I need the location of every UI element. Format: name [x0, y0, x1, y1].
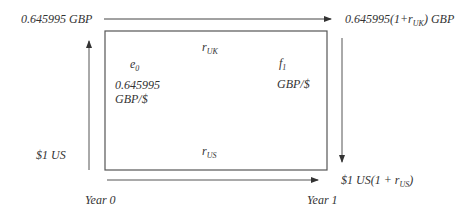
spot-rate-unit: GBP/$ [115, 92, 148, 106]
bottom-right-amount: $1 US(1 + rUS) [341, 173, 413, 192]
top-left-amount: 0.645995 GBP [21, 12, 92, 26]
left-amount: $1 US [36, 148, 66, 162]
year-0-label: Year 0 [85, 193, 116, 207]
spot-rate-value: 0.645995 [115, 78, 160, 92]
forward-rate-unit: GBP/$ [277, 77, 310, 91]
year-1-label: Year 1 [307, 193, 338, 207]
us-rate-label: rUS [202, 144, 216, 163]
top-right-amount: 0.645995(1+rUK) GBP [345, 12, 454, 31]
spot-rate-label: e0 [130, 57, 139, 76]
uk-rate-label: rUK [202, 40, 218, 59]
forward-rate-label: f1 [279, 56, 286, 75]
